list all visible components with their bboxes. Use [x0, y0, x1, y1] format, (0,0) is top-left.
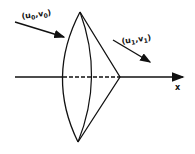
diagram-canvas: (u0,v0) (u1,v1) x: [0, 0, 195, 154]
incoming-vector-label: (u0,v0): [21, 8, 52, 22]
outgoing-vector-label: (u1,v1): [121, 33, 152, 47]
x-axis-label: x: [175, 83, 181, 92]
incoming-vector-arrow: [15, 22, 64, 37]
